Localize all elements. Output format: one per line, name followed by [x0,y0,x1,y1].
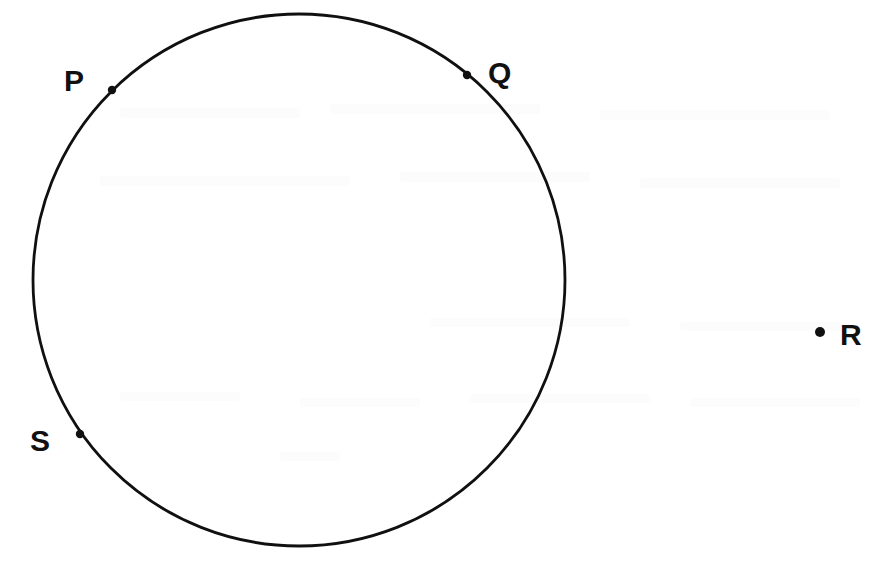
point-label-q: Q [488,56,511,89]
point-marker-s [76,430,84,438]
point-marker-r [815,327,825,337]
point-label-p: P [64,64,84,97]
point-label-s: S [30,424,50,457]
point-marker-p [108,86,116,94]
figure-canvas: P Q R S [0,0,878,561]
point-label-r: R [840,318,862,351]
geometry-diagram: P Q R S [0,0,878,561]
point-marker-q [463,71,471,79]
